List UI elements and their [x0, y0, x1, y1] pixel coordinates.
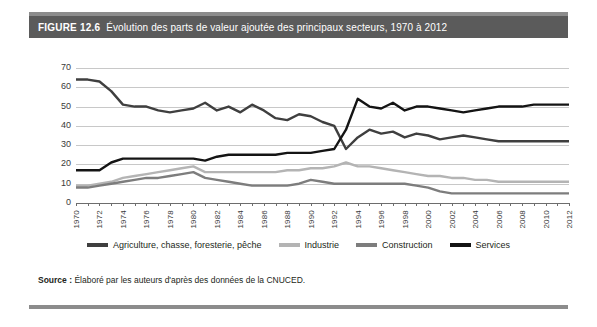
x-tick-mark [311, 203, 312, 206]
legend-item[interactable]: Construction [356, 240, 433, 250]
x-tick-mark [369, 203, 370, 206]
x-tick-mark [170, 203, 171, 206]
x-tick-label: 1992 [330, 210, 339, 229]
x-tick-mark [240, 203, 241, 206]
x-tick-mark [346, 203, 347, 206]
x-tick-mark [381, 203, 382, 206]
x-tick-mark [229, 203, 230, 206]
x-tick-mark [546, 203, 547, 206]
x-tick-mark [76, 203, 77, 206]
x-tick-label: 1984 [236, 210, 245, 229]
legend-label: Industrie [305, 240, 340, 250]
x-tick-label: 1994 [354, 210, 363, 229]
x-tick-mark [264, 203, 265, 206]
x-tick-label: 1990 [307, 210, 316, 229]
bottom-rule [29, 305, 568, 309]
x-tick-label: 1978 [166, 210, 175, 229]
x-tick-label: 1972 [95, 210, 104, 229]
x-tick-mark [252, 203, 253, 206]
x-tick-mark [323, 203, 324, 206]
x-tick-mark [487, 203, 488, 206]
legend-swatch-icon [356, 243, 377, 247]
x-tick-label: 1970 [72, 210, 81, 229]
x-tick-label: 1982 [213, 210, 222, 229]
source-label: Source : [38, 275, 72, 285]
x-tick-label: 2004 [471, 210, 480, 229]
x-tick-label: 2012 [565, 210, 574, 229]
figure-container: FIGURE 12.6 Évolution des parts de valeu… [0, 0, 597, 327]
x-tick-mark [499, 203, 500, 206]
x-tick-mark [193, 203, 194, 206]
x-tick-mark [557, 203, 558, 206]
x-tick-mark [276, 203, 277, 206]
legend-label: Services [476, 240, 511, 250]
x-tick-mark [287, 203, 288, 206]
source-note: Source : Élaboré par les auteurs d'après… [38, 275, 305, 285]
x-tick-mark [111, 203, 112, 206]
y-tick-label: 20 [49, 158, 71, 168]
x-tick-mark [205, 203, 206, 206]
series-line [76, 80, 569, 149]
x-tick-label: 1996 [377, 210, 386, 229]
x-tick-mark [334, 203, 335, 206]
x-tick-mark [99, 203, 100, 206]
series-line [76, 172, 569, 193]
y-tick-label: 70 [49, 62, 71, 72]
y-axis-labels: 010203040506070 [41, 68, 71, 203]
legend-swatch-icon [450, 243, 471, 247]
x-tick-label: 1998 [401, 210, 410, 229]
x-tick-mark [463, 203, 464, 206]
x-tick-label: 2002 [448, 210, 457, 229]
x-tick-mark [358, 203, 359, 206]
x-tick-label: 2006 [495, 210, 504, 229]
figure-number: FIGURE 12.6 [38, 22, 100, 33]
x-tick-mark [569, 203, 570, 206]
x-tick-mark [393, 203, 394, 206]
plot-wrapper: 010203040506070 197019721974197619781980… [29, 44, 568, 302]
chart-legend: Agriculture, chasse, foresterie, pêcheIn… [29, 240, 568, 250]
series-line [76, 99, 569, 170]
x-tick-label: 1988 [283, 210, 292, 229]
x-tick-label: 2010 [542, 210, 551, 229]
source-text: Élaboré par les auteurs d'après des donn… [74, 275, 305, 285]
x-tick-mark [217, 203, 218, 206]
x-tick-mark [440, 203, 441, 206]
legend-item[interactable]: Industrie [279, 240, 340, 250]
x-tick-mark [299, 203, 300, 206]
y-tick-label: 40 [49, 120, 71, 130]
x-tick-label: 1986 [260, 210, 269, 229]
y-tick-label: 60 [49, 81, 71, 91]
x-tick-label: 2008 [518, 210, 527, 229]
x-tick-mark [452, 203, 453, 206]
x-tick-mark [88, 203, 89, 206]
figure-title-bar: FIGURE 12.6 Évolution des parts de valeu… [29, 16, 568, 38]
x-tick-mark [475, 203, 476, 206]
y-tick-label: 50 [49, 101, 71, 111]
x-tick-mark [158, 203, 159, 206]
x-tick-mark [428, 203, 429, 206]
x-tick-mark [135, 203, 136, 206]
x-tick-label: 2000 [424, 210, 433, 229]
y-tick-label: 10 [49, 178, 71, 188]
legend-label: Agriculture, chasse, foresterie, pêche [113, 240, 262, 250]
x-tick-label: 1980 [189, 210, 198, 229]
legend-item[interactable]: Agriculture, chasse, foresterie, pêche [87, 240, 262, 250]
legend-swatch-icon [87, 243, 108, 247]
chart-lines [76, 68, 569, 203]
x-tick-mark [510, 203, 511, 206]
x-tick-mark [146, 203, 147, 206]
x-tick-mark [534, 203, 535, 206]
x-tick-mark [416, 203, 417, 206]
x-tick-mark [182, 203, 183, 206]
x-tick-label: 1974 [119, 210, 128, 229]
legend-item[interactable]: Services [450, 240, 511, 250]
x-tick-mark [522, 203, 523, 206]
figure-title: Évolution des parts de valeur ajoutée de… [106, 22, 447, 33]
legend-label: Construction [382, 240, 433, 250]
x-tick-mark [123, 203, 124, 206]
y-tick-label: 30 [49, 139, 71, 149]
y-tick-label: 0 [49, 197, 71, 207]
x-tick-mark [405, 203, 406, 206]
legend-swatch-icon [279, 243, 300, 247]
x-tick-label: 1976 [142, 210, 151, 229]
